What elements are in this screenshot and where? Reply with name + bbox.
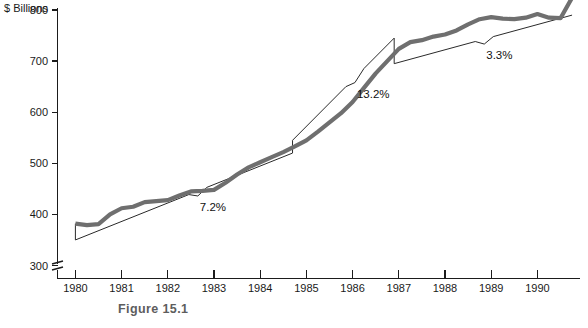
data-series-line bbox=[75, 0, 572, 225]
y-tick-label: 600 bbox=[30, 106, 48, 118]
x-axis-ticks bbox=[75, 270, 537, 279]
x-tick-label: 1988 bbox=[433, 282, 457, 294]
y-axis-ticks bbox=[52, 10, 58, 266]
line-chart: 300 400 500 600 700 800 $ Billions 1980 bbox=[0, 0, 588, 328]
figure-container: 300 400 500 600 700 800 $ Billions 1980 bbox=[0, 0, 588, 328]
x-tick-label: 1985 bbox=[294, 282, 318, 294]
x-tick-label: 1982 bbox=[156, 282, 180, 294]
y-tick-label: 400 bbox=[30, 208, 48, 220]
x-tick-label: 1987 bbox=[387, 282, 411, 294]
y-tick-label: 500 bbox=[30, 157, 48, 169]
x-tick-label: 1984 bbox=[248, 282, 272, 294]
growth-rate-annotation: 3.3% bbox=[486, 49, 512, 61]
x-tick-label: 1990 bbox=[525, 282, 549, 294]
x-tick-label: 1983 bbox=[202, 282, 226, 294]
growth-rate-annotation: 7.2% bbox=[200, 201, 226, 213]
growth-rate-annotation: 13.2% bbox=[357, 88, 390, 100]
x-tick-label: 1986 bbox=[340, 282, 364, 294]
y-axis-title: $ Billions bbox=[4, 2, 49, 14]
x-tick-label: 1989 bbox=[479, 282, 503, 294]
y-axis-tick-labels: 300 400 500 600 700 800 bbox=[30, 4, 48, 272]
x-tick-label: 1981 bbox=[109, 282, 133, 294]
y-tick-label: 700 bbox=[30, 55, 48, 67]
trend-line-segment-1 bbox=[75, 153, 292, 240]
x-axis-tick-labels: 1980 1981 1982 1983 1984 1985 1986 1987 … bbox=[63, 282, 549, 294]
y-tick-label: 300 bbox=[30, 260, 48, 272]
x-tick-label: 1980 bbox=[63, 282, 87, 294]
figure-caption: Figure 15.1 bbox=[118, 302, 188, 316]
